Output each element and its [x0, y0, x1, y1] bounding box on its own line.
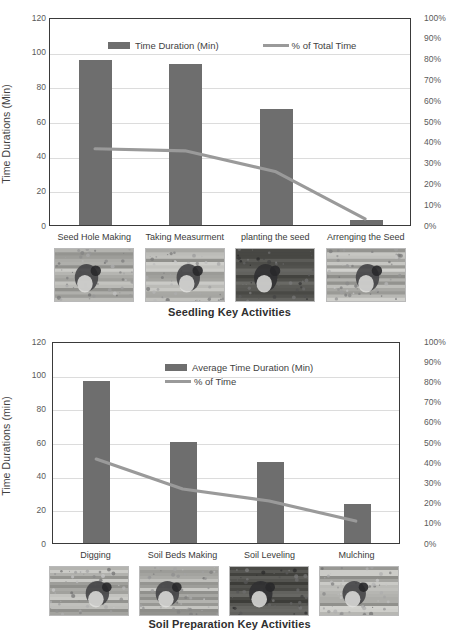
category-label: Taking Measurment — [140, 232, 231, 242]
y2-tick-label: 50% — [421, 439, 457, 448]
y2-tick-label: 70% — [421, 398, 457, 407]
category-label: Arrenging the Seed — [321, 232, 412, 242]
y2-axis-ticks-top: 100%90%80%70%60%50%40%30%20%10%0% — [421, 18, 457, 226]
y2-tick-label: 0% — [421, 222, 457, 231]
legend-bar-label: Time Duration (Min) — [135, 40, 219, 51]
y-tick-label: 20 — [18, 506, 46, 515]
chart-seedling: Time Durations (Min) 120100806040200 100… — [0, 4, 459, 324]
activity-photo — [139, 566, 219, 616]
activity-photo — [326, 248, 406, 302]
y2-tick-label: 30% — [421, 479, 457, 488]
y2-tick-label: 20% — [421, 180, 457, 189]
x-axis-title-bottom: Soil Preparation Key Activities — [0, 618, 459, 630]
photo-cell — [140, 248, 231, 302]
y2-tick-label: 80% — [421, 55, 457, 64]
y-tick-label: 40 — [18, 472, 46, 481]
category-label: Soil Leveling — [226, 550, 313, 560]
legend-line-swatch-icon — [263, 44, 289, 47]
category-label: Soil Beds Making — [139, 550, 226, 560]
y-tick-label: 120 — [18, 14, 46, 23]
y2-tick-label: 40% — [421, 138, 457, 147]
photo-cell — [314, 566, 404, 616]
y-tick-label: 100 — [18, 371, 46, 380]
legend-line-label: % of Time — [194, 376, 236, 387]
activity-photo — [235, 248, 315, 302]
legend-entry-bar-bottom: Average Time Duration (Min) — [165, 360, 313, 374]
y2-tick-label: 0% — [421, 540, 457, 549]
y-tick-label: 40 — [18, 152, 46, 161]
category-labels-top: Seed Hole MakingTaking Measurmentplantin… — [49, 232, 411, 242]
y-tick-label: 20 — [18, 187, 46, 196]
y2-tick-label: 10% — [421, 519, 457, 528]
y-tick-label: 0 — [18, 540, 46, 549]
y2-tick-label: 100% — [421, 14, 457, 23]
category-label: Digging — [52, 550, 139, 560]
category-label: Mulching — [313, 550, 400, 560]
y2-tick-label: 20% — [421, 499, 457, 508]
y2-tick-label: 70% — [421, 76, 457, 85]
photo-cell — [49, 248, 140, 302]
line-path — [95, 149, 365, 219]
category-label: Seed Hole Making — [49, 232, 140, 242]
photo-cell — [230, 248, 321, 302]
y2-tick-label: 90% — [421, 34, 457, 43]
legend-bottom: Average Time Duration (Min) % of Time — [165, 360, 313, 388]
line-path — [96, 459, 356, 521]
legend-bar-label: Average Time Duration (Min) — [192, 362, 313, 373]
legend-line-label: % of Total Time — [292, 40, 357, 51]
y-tick-label: 120 — [18, 338, 46, 347]
y2-tick-label: 60% — [421, 418, 457, 427]
y2-tick-label: 40% — [421, 459, 457, 468]
legend-entry-line-bottom: % of Time — [165, 374, 313, 388]
activity-photo — [54, 248, 134, 302]
category-label: planting the seed — [230, 232, 321, 242]
y-tick-label: 80 — [18, 405, 46, 414]
y-tick-label: 80 — [18, 83, 46, 92]
y-tick-label: 60 — [18, 439, 46, 448]
y-axis-title-bottom: Time Durations (min) — [0, 366, 12, 526]
x-axis-title-top: Seedling Key Activities — [0, 306, 459, 318]
activity-photo — [145, 248, 225, 302]
y-tick-label: 0 — [18, 222, 46, 231]
y2-tick-label: 50% — [421, 118, 457, 127]
y2-tick-label: 60% — [421, 97, 457, 106]
photo-cell — [321, 248, 412, 302]
y2-tick-label: 100% — [421, 338, 457, 347]
y-tick-label: 100 — [18, 48, 46, 57]
activity-photo — [319, 566, 399, 616]
y-tick-label: 60 — [18, 118, 46, 127]
legend-bar-swatch-icon — [108, 42, 130, 49]
photo-cell — [224, 566, 314, 616]
y2-axis-ticks-bottom: 100%90%80%70%60%50%40%30%20%10%0% — [421, 342, 457, 544]
activity-photo — [49, 566, 129, 616]
photo-strip-top — [49, 248, 411, 302]
photo-cell — [44, 566, 134, 616]
y-axis-title-top: Time Durations (Min) — [0, 54, 12, 214]
activity-photo — [229, 566, 309, 616]
figure-page: Time Durations (Min) 120100806040200 100… — [0, 0, 459, 640]
photo-strip-bottom — [44, 566, 404, 616]
chart-soil-preparation: Time Durations (min) 120100806040200 100… — [0, 326, 459, 640]
category-labels-bottom: DiggingSoil Beds MakingSoil LevelingMulc… — [52, 550, 400, 560]
y2-tick-label: 30% — [421, 159, 457, 168]
photo-cell — [134, 566, 224, 616]
y-axis-ticks-top: 120100806040200 — [18, 18, 46, 226]
legend-line-swatch-icon — [165, 380, 191, 383]
y2-tick-label: 10% — [421, 201, 457, 210]
y-axis-ticks-bottom: 120100806040200 — [18, 342, 46, 544]
legend-top: Time Duration (Min) % of Total Time — [108, 38, 356, 52]
legend-entry-bar-top: Time Duration (Min) % of Total Time — [108, 38, 356, 52]
y2-tick-label: 90% — [421, 358, 457, 367]
legend-bar-swatch-icon — [165, 364, 187, 371]
y2-tick-label: 80% — [421, 378, 457, 387]
